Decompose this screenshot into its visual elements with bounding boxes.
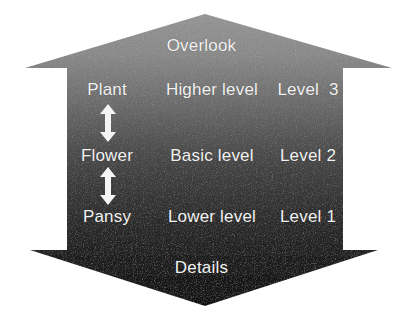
diagram-root: Overlook Plant Higher level Level 3 Flow… [0, 0, 403, 321]
arrow-shape [0, 0, 403, 321]
